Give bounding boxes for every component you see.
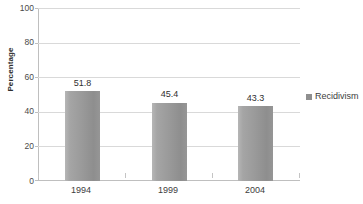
y-tick-label: 0: [12, 177, 34, 186]
x-axis-label-2004: 2004: [215, 186, 295, 195]
y-axis-line: [38, 8, 39, 181]
gridline-80: [38, 43, 300, 44]
bar-2004: [238, 106, 273, 181]
x-axis-label-1994: 1994: [41, 186, 121, 195]
x-tick-mark: [125, 173, 126, 178]
y-tick-label: 40: [12, 107, 34, 116]
x-tick-mark: [299, 173, 300, 178]
y-axis-tick-labels: 100 80 60 40 20 0: [12, 0, 34, 204]
chart-legend: Recidivism: [306, 92, 359, 101]
gridline-100: [38, 8, 300, 9]
bar-1994: [65, 91, 100, 181]
y-tick-mark: [35, 146, 38, 147]
bar-chart: Percentage 100 80 60 40 20 0 51.8 45.4 4…: [0, 0, 363, 204]
x-axis-label-1999: 1999: [128, 186, 208, 195]
y-tick-label: 60: [12, 73, 34, 82]
y-tick-mark: [35, 8, 38, 9]
plot-area: 51.8 45.4 43.3: [38, 8, 300, 181]
legend-swatch-icon: [306, 94, 312, 100]
y-tick-mark: [35, 43, 38, 44]
y-tick-mark: [35, 112, 38, 113]
bar-1999: [152, 103, 187, 182]
bar-value-label-1999: 45.4: [140, 90, 200, 99]
bar-value-label-2004: 43.3: [226, 94, 286, 103]
y-tick-label: 100: [12, 4, 34, 13]
x-tick-mark: [38, 173, 39, 178]
y-tick-mark: [35, 180, 38, 181]
y-tick-label: 20: [12, 142, 34, 151]
y-tick-mark: [35, 77, 38, 78]
x-tick-mark: [212, 173, 213, 178]
y-tick-label: 80: [12, 38, 34, 47]
legend-label-recidivism: Recidivism: [315, 92, 359, 101]
bar-value-label-1994: 51.8: [53, 79, 113, 88]
